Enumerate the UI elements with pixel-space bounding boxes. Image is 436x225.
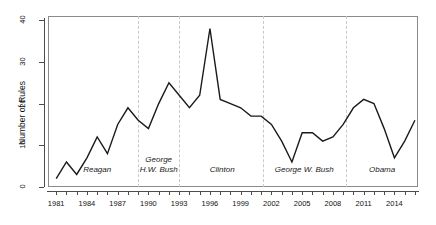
- y-tick-label: 40: [18, 10, 27, 30]
- x-tick: [159, 191, 160, 195]
- x-tick: [66, 191, 67, 195]
- x-tick: [323, 191, 324, 195]
- x-tick: [241, 191, 242, 195]
- y-tick: [39, 62, 44, 63]
- x-tick: [343, 191, 344, 195]
- rules-per-year-line-chart: Number of Rules 010203040 19811984198719…: [0, 0, 436, 225]
- x-tick: [138, 191, 139, 195]
- x-tick: [405, 191, 406, 195]
- x-tick: [415, 191, 416, 195]
- x-tick: [148, 191, 149, 195]
- x-tick: [220, 191, 221, 195]
- x-tick: [271, 191, 272, 195]
- x-tick: [179, 191, 180, 195]
- x-tick: [312, 191, 313, 195]
- x-tick: [107, 191, 108, 195]
- x-tick: [394, 191, 395, 195]
- x-tick: [210, 191, 211, 195]
- president-label: Obama: [322, 165, 436, 175]
- x-tick: [353, 191, 354, 195]
- x-tick: [302, 191, 303, 195]
- y-tick: [39, 104, 44, 105]
- x-tick: [251, 191, 252, 195]
- y-tick: [39, 187, 44, 188]
- president-divider: [263, 16, 264, 187]
- x-tick: [261, 191, 262, 195]
- x-tick: [56, 191, 57, 195]
- x-tick: [87, 191, 88, 195]
- x-tick: [200, 191, 201, 195]
- x-tick: [97, 191, 98, 195]
- y-tick: [39, 145, 44, 146]
- x-tick: [292, 191, 293, 195]
- x-tick: [128, 191, 129, 195]
- x-tick: [189, 191, 190, 195]
- y-tick-label: 20: [18, 93, 27, 113]
- president-divider: [346, 16, 347, 187]
- x-tick: [374, 191, 375, 195]
- y-tick-label: 10: [18, 135, 27, 155]
- x-tick-label: 2014: [374, 199, 414, 208]
- y-tick-label: 0: [18, 177, 27, 197]
- x-tick: [282, 191, 283, 195]
- x-tick: [169, 191, 170, 195]
- y-tick: [39, 20, 44, 21]
- x-tick: [364, 191, 365, 195]
- x-tick: [77, 191, 78, 195]
- x-tick: [118, 191, 119, 195]
- x-tick: [230, 191, 231, 195]
- x-tick: [333, 191, 334, 195]
- y-tick-label: 30: [18, 51, 27, 71]
- x-tick: [384, 191, 385, 195]
- y-axis-line: [44, 18, 45, 187]
